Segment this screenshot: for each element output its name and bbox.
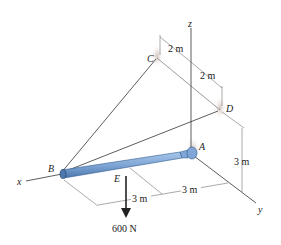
statics-diagram: z x y 2 m 2 m 3 m 3 m 3 m A B C D E 600 … [0,0,281,245]
rod-end-b [60,170,66,179]
dim-label-e: 3 m [132,193,148,204]
ball-joint-a [187,147,197,159]
point-label-d: D [225,103,234,114]
point-label-c: C [147,53,154,64]
point-label-a: A [198,141,206,152]
dim-ext-d-top [222,112,244,128]
y-axis-label: y [257,204,263,215]
load-label: 600 N [112,223,137,234]
dim-label-z-d: 2 m [200,70,216,81]
cable-bc [61,59,156,173]
x-axis-label: x [16,176,22,187]
edge-c-d [157,58,220,110]
dim-label-c-z: 2 m [168,43,184,54]
point-label-e: E [113,173,120,184]
point-label-b: B [48,163,54,174]
load-arrow-head-icon [121,208,131,218]
dim-ext-b [64,180,98,206]
rod-ab [62,152,182,178]
dim-line-bottom [98,183,228,205]
dim-label-a-y: 3 m [182,184,198,195]
support-shade-d [214,96,226,120]
dim-ext-e [130,168,162,194]
z-axis-label: z [187,18,192,29]
x-axis [26,174,62,181]
dim-label-d-height: 3 m [234,156,250,167]
